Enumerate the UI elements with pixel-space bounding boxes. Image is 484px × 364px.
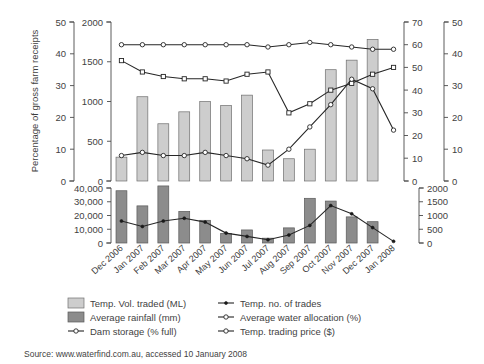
data-point-marker: [308, 102, 312, 106]
tick-label: 50: [452, 17, 463, 28]
data-point-marker: [141, 225, 144, 228]
data-point-marker: [203, 43, 207, 47]
tick-label: 0: [61, 176, 66, 187]
data-point-marker: [287, 147, 291, 151]
data-point-marker: [140, 43, 144, 47]
data-point-marker: [370, 47, 374, 51]
data-point-marker: [308, 224, 311, 227]
tick-label: 40,000: [74, 183, 103, 194]
legend-item: Temp. no. of trades: [218, 298, 322, 309]
bar: [116, 191, 127, 243]
data-point-marker: [266, 238, 269, 241]
axis-percentage-of-gross-farm-receipts: 50 40 30 20 10 0 Percentage of gross far…: [29, 17, 74, 187]
axis-average-rainfall-mm: 40,000 30,000 20,000 10,000 0: [74, 183, 111, 249]
data-point-marker: [182, 153, 186, 157]
data-point-marker: [225, 232, 228, 235]
tick-label: 40: [55, 48, 66, 59]
tick-label: 1000: [427, 210, 448, 221]
tick-label: 10: [412, 153, 423, 164]
axis-temp-no-of-trades: 2000 1500 1000 500 0: [419, 183, 448, 249]
data-point-marker: [308, 40, 312, 44]
tick-label: 70: [412, 17, 423, 28]
legend-swatch: [68, 312, 84, 322]
combined-bar-line-chart: 50 40 30 20 10 0 Percentage of gross far…: [0, 0, 484, 364]
tick-label: 0: [412, 176, 417, 187]
data-point-marker: [245, 43, 249, 47]
data-point-marker: [203, 150, 207, 154]
tick-label: 1500: [427, 196, 448, 207]
y-axis-title: Percentage of gross farm receipts: [29, 29, 40, 172]
chart-legend: Temp. Vol. traded (ML)Temp. no. of trade…: [68, 298, 361, 337]
data-point-marker: [224, 79, 228, 83]
data-point-marker: [140, 70, 144, 74]
tick-label: 30,000: [74, 196, 103, 207]
data-point-marker: [140, 150, 144, 154]
tick-label: 30: [412, 107, 423, 118]
bar: [283, 159, 294, 181]
tick-label: 0: [427, 238, 432, 249]
data-point-marker: [287, 234, 290, 237]
tick-label: 40: [412, 85, 423, 96]
data-point-marker: [391, 47, 395, 51]
legend-swatch: [68, 298, 84, 308]
data-point-marker: [391, 65, 395, 69]
legend-label: Average rainfall (mm): [90, 312, 181, 323]
legend-marker: [225, 302, 228, 305]
data-point-marker: [203, 77, 207, 81]
bar: [367, 39, 378, 181]
tick-label: 40: [452, 48, 463, 59]
legend-label: Average water allocation (%): [240, 312, 361, 323]
bar: [179, 112, 190, 181]
tick-label: 2000: [427, 183, 448, 194]
tick-label: 30: [452, 80, 463, 91]
legend-label: Temp. trading price ($): [240, 326, 335, 337]
data-point-marker: [349, 45, 353, 49]
data-point-marker: [287, 43, 291, 47]
chart-figure: 50 40 30 20 10 0 Percentage of gross far…: [0, 0, 484, 364]
bar: [158, 186, 169, 243]
data-point-marker: [308, 125, 312, 129]
data-point-marker: [161, 43, 165, 47]
tick-label: 0: [98, 238, 103, 249]
tick-label: 1000: [82, 96, 103, 107]
data-point-marker: [161, 74, 165, 78]
axis-trading-price-dollars: 50 40 30 20 10 0: [444, 17, 463, 187]
legend-item: Dam storage (% full): [68, 326, 177, 337]
data-point-marker: [266, 45, 270, 49]
tick-label: 20: [55, 112, 66, 123]
bar: [325, 70, 336, 181]
bar: [137, 97, 148, 181]
data-point-marker: [161, 153, 165, 157]
tick-label: 2000: [82, 17, 103, 28]
data-point-marker: [182, 77, 186, 81]
data-point-marker: [287, 111, 291, 115]
legend-marker: [224, 329, 228, 333]
data-point-marker: [329, 88, 333, 92]
tick-label: 20: [452, 112, 463, 123]
tick-label: 10: [452, 144, 463, 155]
tick-label: 30: [55, 80, 66, 91]
data-point-marker: [266, 163, 270, 167]
data-point-marker: [266, 70, 270, 74]
bar: [242, 95, 253, 181]
bar: [304, 198, 315, 243]
tick-label: 20,000: [74, 210, 103, 221]
legend-label: Temp. Vol. traded (ML): [90, 298, 186, 309]
bar: [116, 157, 127, 181]
data-point-marker: [246, 235, 249, 238]
legend-item: Temp. Vol. traded (ML): [68, 298, 186, 309]
data-point-marker: [392, 240, 395, 243]
legend-marker: [224, 315, 228, 319]
data-point-marker: [119, 153, 123, 157]
tick-label: 0: [452, 176, 457, 187]
tick-label: 50: [55, 17, 66, 28]
data-point-marker: [245, 72, 249, 76]
tick-label: 60: [412, 39, 423, 50]
data-point-marker: [329, 102, 333, 106]
bar: [137, 206, 148, 243]
bottom-panel-bars: [116, 186, 378, 243]
data-point-marker: [350, 212, 353, 215]
data-point-marker: [371, 72, 375, 76]
tick-label: 50: [412, 62, 423, 73]
legend-label: Dam storage (% full): [90, 326, 177, 337]
